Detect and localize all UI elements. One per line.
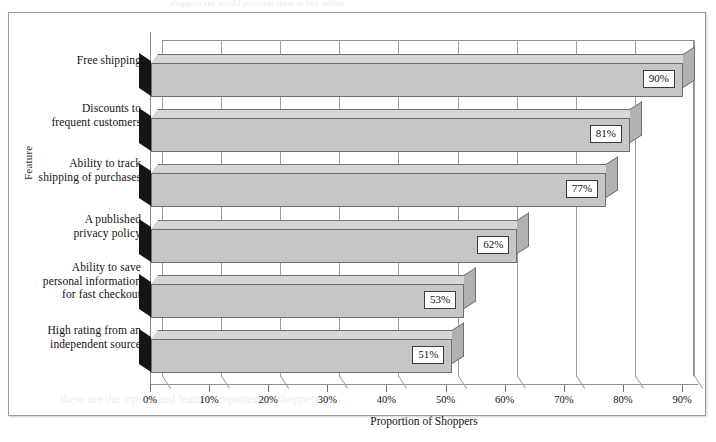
bar-value-label: 62%: [477, 236, 509, 254]
bar-ability-to-save[interactable]: 53%: [151, 284, 464, 318]
bar-front-face: [151, 118, 630, 152]
category-label-discounts: Discounts to frequent customers: [0, 102, 141, 129]
gridline-depth-segment: [399, 376, 408, 389]
x-axis-tick-label: 0%: [143, 394, 157, 405]
x-axis-tick: [564, 385, 565, 392]
category-label-line: High rating from an: [0, 324, 141, 338]
category-label-high-rating: High rating from an independent source: [0, 324, 141, 351]
category-label-line: Ability to save: [0, 261, 141, 275]
bar-top-face: [151, 330, 459, 339]
bar-top-face: [151, 220, 525, 229]
bar-high-rating-from[interactable]: 51%: [151, 339, 452, 373]
scan-caption-remnant: shoppers say would persuade them to buy …: [170, 0, 470, 8]
bar-free-shipping[interactable]: 90%: [151, 63, 683, 97]
gridline: [694, 40, 695, 377]
category-label-line: frequent customers: [0, 116, 141, 130]
bar-ability-to-track[interactable]: 77%: [151, 173, 606, 207]
category-label-line: Free shipping: [0, 54, 141, 68]
gridline-depth-segment: [458, 376, 467, 389]
x-axis-tick: [505, 385, 506, 392]
category-label-save-info: Ability to save personal information for…: [0, 261, 141, 302]
gridline-depth-segment: [221, 376, 230, 389]
bar-value-label: 53%: [424, 291, 456, 309]
x-axis-tick: [682, 385, 683, 392]
x-axis-tick: [386, 385, 387, 392]
category-label-line: personal information: [0, 275, 141, 289]
x-axis-tick-label: 30%: [318, 394, 337, 405]
category-label-free-shipping: Free shipping: [0, 54, 141, 68]
bar-front-face: [151, 63, 683, 97]
x-axis-title: Proportion of Shoppers: [150, 415, 698, 427]
plot-area: 0%10%20%30%40%50%60%70%80%90% 90%81%77%6…: [150, 32, 698, 387]
bar-front-face: [151, 229, 517, 263]
bar-value-label: 90%: [643, 70, 675, 88]
x-axis-tick: [623, 385, 624, 392]
category-label-line: Ability to track: [0, 157, 141, 171]
x-axis-tick-label: 60%: [495, 394, 514, 405]
bar-front-face: [151, 284, 464, 318]
bar-top-face: [151, 109, 637, 118]
category-label-line: A published: [0, 213, 141, 227]
gridline-depth-segment: [339, 376, 348, 389]
bar-value-label: 77%: [566, 180, 598, 198]
bar-a-published-privacy[interactable]: 62%: [151, 229, 517, 263]
x-axis-tick: [446, 385, 447, 392]
gridline-depth-segment: [280, 376, 289, 389]
category-label-line: shipping of purchases: [0, 171, 141, 185]
x-axis-tick-label: 70%: [554, 394, 573, 405]
bar-left-wedge: [139, 274, 151, 318]
gridline-depth-segment: [635, 376, 644, 389]
bar-left-wedge: [139, 219, 151, 263]
x-axis-tick-label: 90%: [672, 394, 691, 405]
floor-depth-edge: [150, 376, 163, 385]
bar-value-label: 81%: [590, 125, 622, 143]
x-axis-line: [150, 384, 698, 385]
x-axis-tick: [209, 385, 210, 392]
gridline-depth-segment: [576, 376, 585, 389]
gridline-depth-segment: [694, 376, 703, 389]
gridline-depth-segment: [162, 376, 171, 389]
x-axis-tick: [150, 385, 151, 392]
bar-left-wedge: [139, 53, 151, 97]
bar-left-wedge: [139, 108, 151, 152]
bar-chart: Feature Free shipping Discounts to frequ…: [8, 12, 706, 416]
category-label-line: Discounts to: [0, 102, 141, 116]
category-label-line: privacy policy: [0, 227, 141, 241]
category-label-privacy-policy: A published privacy policy: [0, 213, 141, 240]
bar-top-face: [151, 54, 690, 63]
gridline-depth-segment: [517, 376, 526, 389]
bar-top-face: [151, 275, 471, 284]
x-axis-tick-label: 20%: [259, 394, 278, 405]
x-axis-tick-label: 10%: [199, 394, 218, 405]
x-axis-tick: [327, 385, 328, 392]
x-axis-tick: [268, 385, 269, 392]
category-label-line: for fast checkout: [0, 288, 141, 302]
bar-top-face: [151, 164, 613, 173]
bar-front-face: [151, 339, 452, 373]
x-axis-tick-label: 80%: [613, 394, 632, 405]
x-axis-tick-label: 50%: [436, 394, 455, 405]
x-axis-tick-label: 40%: [377, 394, 396, 405]
bar-value-label: 51%: [412, 346, 444, 364]
category-label-line: independent source: [0, 338, 141, 352]
bar-discounts-to-frequent[interactable]: 81%: [151, 118, 630, 152]
bar-front-face: [151, 173, 606, 207]
category-label-track-shipping: Ability to track shipping of purchases: [0, 157, 141, 184]
bar-left-wedge: [139, 329, 151, 373]
bar-left-wedge: [139, 163, 151, 207]
